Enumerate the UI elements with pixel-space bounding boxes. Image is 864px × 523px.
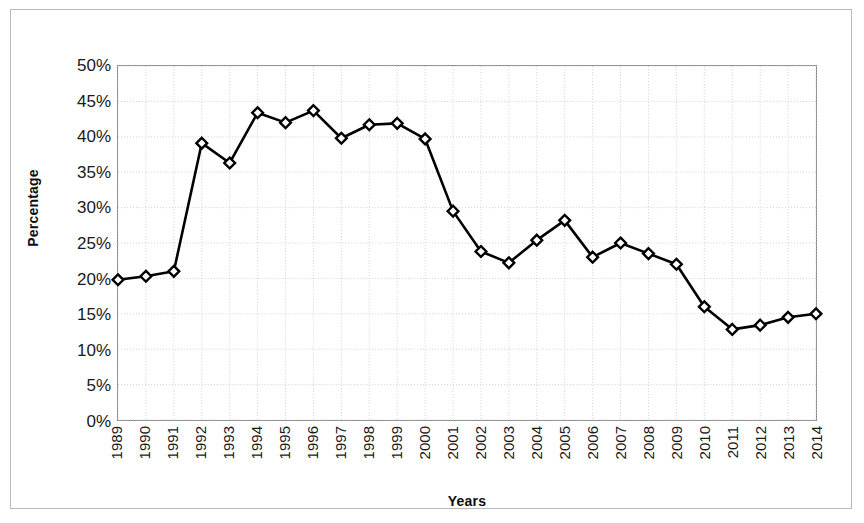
data-point-marker xyxy=(783,312,794,323)
x-tick-label: 1998 xyxy=(361,426,376,459)
y-tick-label: 20% xyxy=(19,270,111,287)
x-tick-label: 1992 xyxy=(193,426,208,459)
x-axis-tick-labels: 1989199019911992199319941995199619971998… xyxy=(117,426,817,488)
plot-area xyxy=(117,65,817,421)
y-axis-tick-labels: 0%5%10%15%20%25%30%35%40%45%50% xyxy=(11,10,111,510)
x-tick-label: 2014 xyxy=(809,426,824,459)
x-tick-label: 2000 xyxy=(417,426,432,459)
y-tick-label: 40% xyxy=(19,128,111,145)
x-tick-label: 1996 xyxy=(305,426,320,459)
data-point-marker xyxy=(113,274,124,285)
x-axis-title: Years xyxy=(117,493,817,509)
data-point-marker xyxy=(392,118,403,129)
x-tick-label: 1995 xyxy=(277,426,292,459)
data-point-marker xyxy=(615,238,626,249)
x-tick-label: 1989 xyxy=(109,426,124,459)
y-tick-label: 25% xyxy=(19,235,111,252)
y-tick-label: 45% xyxy=(19,92,111,109)
x-tick-label: 1991 xyxy=(165,426,180,459)
data-point-marker xyxy=(420,134,431,145)
data-point-marker xyxy=(755,320,766,331)
data-point-marker xyxy=(364,119,375,130)
x-tick-label: 2012 xyxy=(753,426,768,459)
x-tick-label: 1993 xyxy=(221,426,236,459)
x-tick-label: 1999 xyxy=(389,426,404,459)
y-tick-label: 5% xyxy=(19,377,111,394)
data-point-marker xyxy=(252,107,263,118)
y-tick-label: 15% xyxy=(19,306,111,323)
x-tick-label: 2004 xyxy=(529,426,544,459)
data-point-marker xyxy=(168,266,179,277)
x-tick-label: 2005 xyxy=(557,426,572,459)
x-tick-label: 2002 xyxy=(473,426,488,459)
x-tick-label: 2001 xyxy=(445,426,460,459)
x-tick-label: 2007 xyxy=(613,426,628,459)
data-point-marker xyxy=(141,271,152,282)
x-tick-label: 1994 xyxy=(249,426,264,459)
x-tick-label: 2013 xyxy=(781,426,796,459)
y-tick-label: 10% xyxy=(19,341,111,358)
data-point-marker xyxy=(811,308,822,319)
x-tick-label: 2009 xyxy=(669,426,684,459)
x-tick-label: 1997 xyxy=(333,426,348,459)
y-tick-label: 30% xyxy=(19,199,111,216)
series-polyline xyxy=(118,111,816,330)
y-tick-label: 50% xyxy=(19,57,111,74)
x-tick-label: 2008 xyxy=(641,426,656,459)
data-point-marker xyxy=(280,117,291,128)
x-tick-label: 2011 xyxy=(725,426,740,458)
x-tick-label: 2010 xyxy=(697,426,712,459)
chart-figure: Percentage 0%5%10%15%20%25%30%35%40%45%5… xyxy=(10,9,852,509)
y-tick-label: 35% xyxy=(19,163,111,180)
x-tick-label: 1990 xyxy=(137,426,152,459)
x-tick-label: 2006 xyxy=(585,426,600,459)
y-tick-label: 0% xyxy=(19,413,111,430)
data-point-marker xyxy=(643,248,654,259)
x-tick-label: 2003 xyxy=(501,426,516,459)
data-series-line xyxy=(118,66,816,420)
